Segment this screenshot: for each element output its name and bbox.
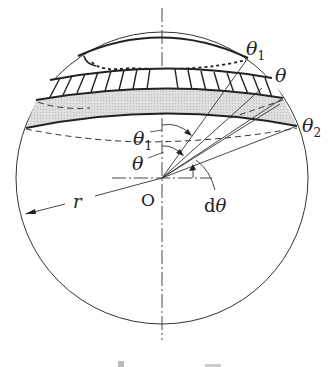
- label-theta1-angle: θ1: [133, 127, 152, 153]
- label-theta-angle: θ: [132, 152, 144, 174]
- label-origin: O: [141, 190, 155, 210]
- label-dtheta: dθ: [204, 195, 227, 216]
- label-theta1-top: θ1: [246, 37, 265, 63]
- sphere-diagram: θ1 θ θ2 θ1 θ O r dθ: [0, 0, 335, 367]
- dtheta-leader: [196, 160, 215, 190]
- caption-remnant: [118, 361, 124, 367]
- cap-arc: [78, 37, 248, 58]
- cap-rim-left: [84, 56, 96, 66]
- label-theta2: θ2: [302, 114, 321, 140]
- radius-arrow-icon: [25, 209, 36, 214]
- label-theta-top: θ: [275, 64, 287, 86]
- theta1-leader: [150, 130, 162, 132]
- label-radius: r: [73, 191, 83, 212]
